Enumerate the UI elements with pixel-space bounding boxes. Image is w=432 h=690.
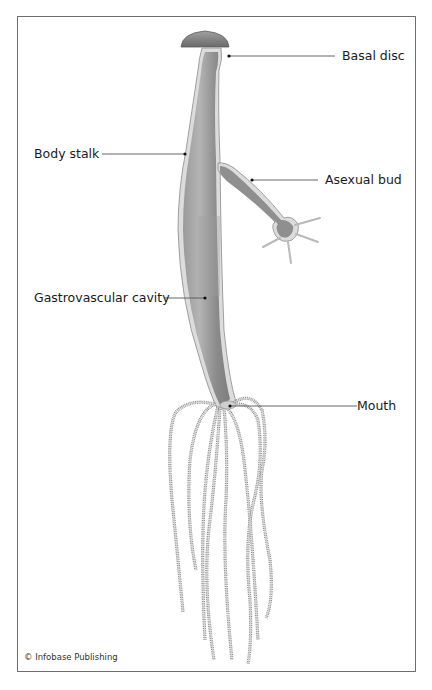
basal-disc-shape (181, 31, 229, 47)
copyright-credit: © Infobase Publishing (24, 652, 118, 662)
hydra-illustration (0, 0, 432, 690)
mouth-shape (220, 401, 236, 409)
label-body-stalk: Body stalk (34, 147, 99, 161)
label-basal-disc: Basal disc (342, 49, 405, 63)
body-stalk-shape (178, 48, 236, 410)
tentacles (170, 398, 272, 664)
leader-lines (102, 56, 357, 406)
label-gastrovascular-cavity: Gastrovascular cavity (34, 291, 170, 305)
label-asexual-bud: Asexual bud (325, 173, 402, 187)
label-mouth: Mouth (357, 399, 396, 413)
asexual-bud-shape (218, 163, 320, 263)
